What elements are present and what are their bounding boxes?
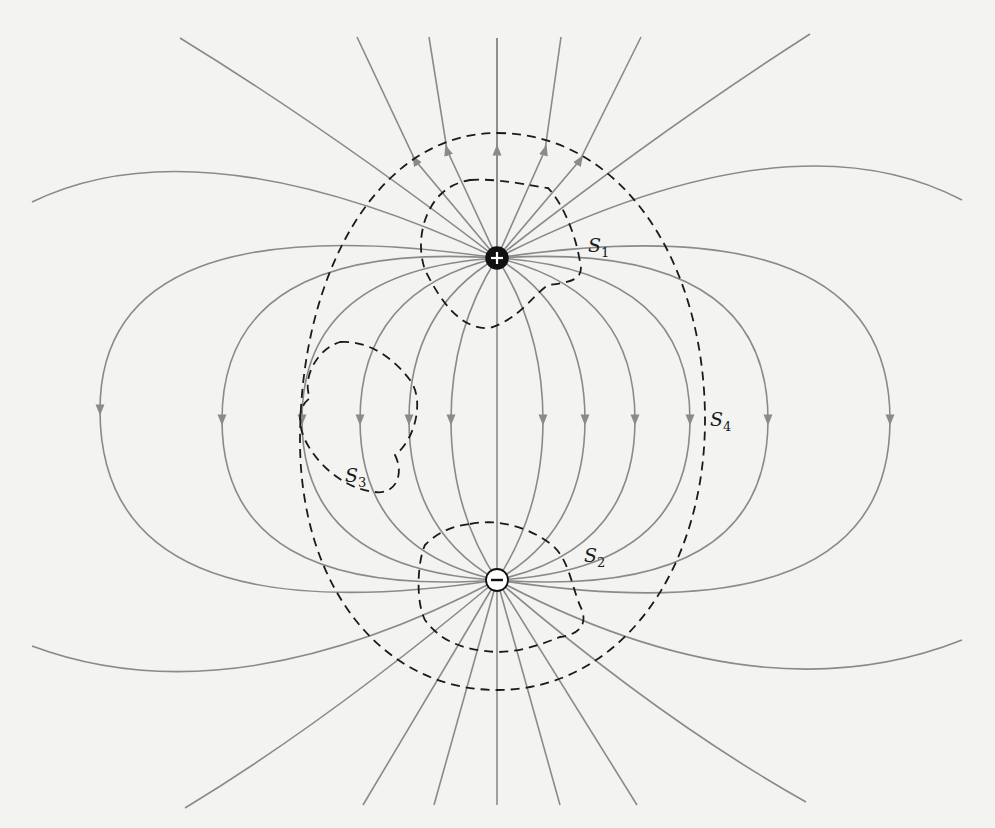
- negative-charge: [486, 569, 508, 591]
- dipole-field-figure: S1 S2 S3 S4: [0, 0, 995, 828]
- positive-charge: [486, 247, 508, 269]
- field-diagram: [0, 0, 995, 828]
- label-s2: S2: [584, 546, 605, 569]
- label-s3: S3: [345, 466, 366, 489]
- field-lines: [32, 34, 962, 808]
- label-s4: S4: [710, 410, 731, 433]
- label-s1: S1: [588, 236, 609, 259]
